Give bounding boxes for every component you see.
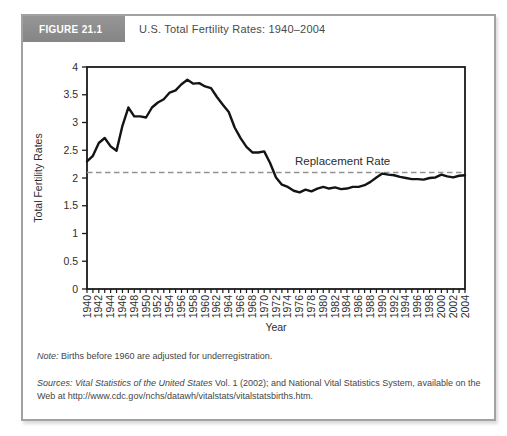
page: FIGURE 21.1 U.S. Total Fertility Rates: … <box>0 0 507 436</box>
x-tick-label: 2000 <box>435 295 447 319</box>
x-tick-label: 2002 <box>447 295 459 319</box>
figure-card: FIGURE 21.1 U.S. Total Fertility Rates: … <box>21 14 496 421</box>
figure-title: U.S. Total Fertility Rates: 1940–2004 <box>139 16 325 42</box>
x-tick-label: 1968 <box>246 295 258 319</box>
y-tick-label: 2 <box>72 172 78 184</box>
x-tick-label: 1970 <box>258 295 270 319</box>
x-tick-label: 1950 <box>140 295 152 319</box>
x-tick-label: 1960 <box>199 295 211 319</box>
x-tick-label: 1966 <box>234 295 246 319</box>
fertility-rate-chart: 00.511.522.533.5419401942194419461948195… <box>23 46 494 348</box>
x-tick-label: 1954 <box>163 295 175 319</box>
x-tick-label: 1990 <box>376 295 388 319</box>
x-tick-label: 1976 <box>293 295 305 319</box>
x-tick-label: 1974 <box>281 295 293 319</box>
x-tick-label: 1940 <box>81 295 93 319</box>
x-tick-label: 1984 <box>340 295 352 319</box>
x-tick-label: 1994 <box>399 295 411 319</box>
y-tick-label: 1.5 <box>63 199 78 211</box>
figure-header: FIGURE 21.1 U.S. Total Fertility Rates: … <box>23 16 494 43</box>
x-tick-label: 1996 <box>411 295 423 319</box>
x-tick-label: 1978 <box>305 295 317 319</box>
replacement-rate-label: Replacement Rate <box>295 155 390 167</box>
note-body: Births before 1960 are adjusted for unde… <box>59 351 273 361</box>
y-tick-label: 4 <box>72 61 78 73</box>
figure-number-tag: FIGURE 21.1 <box>23 16 125 42</box>
x-tick-label: 1964 <box>222 295 234 319</box>
y-axis-title: Total Fertility Rates <box>32 133 44 222</box>
x-tick-label: 1992 <box>388 295 400 319</box>
x-tick-label: 1942 <box>92 295 104 319</box>
sources-work-title: Vital Statistics of the United States <box>73 378 213 388</box>
x-tick-label: 1982 <box>329 295 341 319</box>
x-tick-label: 1998 <box>423 295 435 319</box>
note-text: Note: Births before 1960 are adjusted fo… <box>37 350 483 363</box>
note-label: Note: <box>37 351 59 361</box>
x-tick-label: 1956 <box>175 295 187 319</box>
x-tick-label: 1946 <box>116 295 128 319</box>
fertility-rate-series <box>87 80 465 193</box>
y-tick-label: 3 <box>72 116 78 128</box>
sources-label: Sources: <box>37 378 73 388</box>
y-tick-label: 1 <box>72 227 78 239</box>
x-tick-label: 1944 <box>104 295 116 319</box>
y-tick-label: 2.5 <box>63 144 78 156</box>
x-tick-label: 1988 <box>364 295 376 319</box>
x-tick-label: 1958 <box>187 295 199 319</box>
x-axis-title: Year <box>265 321 287 333</box>
x-tick-label: 2004 <box>459 295 471 319</box>
x-tick-label: 1986 <box>352 295 364 319</box>
y-tick-label: 0.5 <box>63 255 78 267</box>
x-tick-label: 1948 <box>128 295 140 319</box>
sources-text: Sources: Vital Statistics of the United … <box>37 377 483 403</box>
y-tick-label: 0 <box>72 283 78 295</box>
x-tick-label: 1972 <box>270 295 282 319</box>
x-tick-label: 1952 <box>151 295 163 319</box>
x-tick-label: 1980 <box>317 295 329 319</box>
x-tick-label: 1962 <box>210 295 222 319</box>
y-tick-label: 3.5 <box>63 88 78 100</box>
